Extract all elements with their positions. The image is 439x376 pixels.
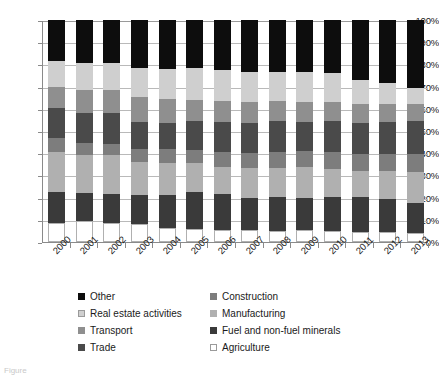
bar-2004	[159, 20, 176, 242]
bar-2011	[352, 20, 369, 242]
bar-segment-transport	[186, 100, 203, 121]
bar-segment-fuel-and-non-fuel-minerals	[48, 192, 65, 223]
bar-segment-other	[131, 20, 148, 68]
bar-segment-manufacturing	[186, 163, 203, 192]
bar-segment-trade	[159, 123, 176, 149]
bar-segment-manufacturing	[379, 171, 396, 199]
bar-segment-fuel-and-non-fuel-minerals	[214, 194, 231, 230]
bar-segment-real-estate-activities	[186, 68, 203, 100]
bar-segment-construction	[159, 149, 176, 163]
bar-segment-transport	[241, 102, 258, 123]
bar-segment-trade	[324, 121, 341, 152]
bar-2007	[241, 20, 258, 242]
bar-segment-transport	[131, 97, 148, 123]
bar-2008	[269, 20, 286, 242]
bar-2010	[324, 20, 341, 242]
bar-segment-manufacturing	[296, 167, 313, 198]
bar-segment-other	[269, 20, 286, 72]
legend-swatch-icon	[78, 293, 85, 300]
bar-segment-manufacturing	[407, 172, 424, 203]
bar-2001	[76, 20, 93, 242]
bar-segment-transport	[379, 104, 396, 122]
bar-segment-trade	[131, 122, 148, 149]
y-tick-mark-0	[38, 243, 42, 244]
legend-item-fuel-and-non-fuel-minerals[interactable]: Fuel and non-fuel minerals	[210, 322, 400, 339]
bar-segment-other	[352, 20, 369, 80]
legend-label: Fuel and non-fuel minerals	[222, 325, 340, 336]
legend-item-other[interactable]: Other	[78, 288, 223, 305]
bar-segment-fuel-and-non-fuel-minerals	[324, 197, 341, 231]
legend-label: Transport	[90, 325, 132, 336]
bar-segment-construction	[352, 154, 369, 171]
bar-segment-construction	[269, 152, 286, 168]
bar-segment-construction	[241, 153, 258, 167]
bar-segment-manufacturing	[214, 167, 231, 195]
bar-segment-other	[324, 20, 341, 73]
gridline-30	[43, 176, 428, 177]
bar-segment-trade	[241, 123, 258, 153]
bar-segment-real-estate-activities	[352, 80, 369, 104]
bar-segment-manufacturing	[241, 168, 258, 198]
legend-label: Manufacturing	[222, 308, 285, 319]
bar-segment-manufacturing	[103, 155, 120, 194]
bar-segment-trade	[379, 122, 396, 154]
legend-swatch-icon	[78, 327, 85, 334]
legend-item-manufacturing[interactable]: Manufacturing	[210, 305, 400, 322]
bar-segment-real-estate-activities	[269, 72, 286, 101]
bar-segment-trade	[48, 108, 65, 138]
bar-segment-fuel-and-non-fuel-minerals	[103, 194, 120, 223]
bar-2009	[296, 20, 313, 242]
bar-segment-transport	[324, 102, 341, 121]
bar-segment-real-estate-activities	[379, 83, 396, 104]
bar-segment-manufacturing	[159, 163, 176, 195]
legend-item-real-estate-activities[interactable]: Real estate activities	[78, 305, 223, 322]
bar-segment-construction	[48, 138, 65, 152]
legend-label: Agriculture	[222, 342, 270, 353]
bar-segment-trade	[269, 121, 286, 152]
legend-label: Construction	[222, 291, 278, 302]
bar-segment-construction	[131, 149, 148, 162]
bar-segment-trade	[186, 121, 203, 150]
bar-segment-fuel-and-non-fuel-minerals	[296, 198, 313, 230]
legend-swatch-icon	[210, 344, 217, 351]
bar-segment-other	[186, 20, 203, 68]
bar-segment-real-estate-activities	[103, 63, 120, 90]
bar-segment-transport	[296, 102, 313, 122]
gridline-40	[43, 154, 428, 155]
legend-item-construction[interactable]: Construction	[210, 288, 400, 305]
bar-2012	[379, 20, 396, 242]
gridline-70	[43, 88, 428, 89]
bar-segment-fuel-and-non-fuel-minerals	[241, 198, 258, 230]
gridline-50	[43, 132, 428, 133]
bar-segment-other	[407, 20, 424, 88]
bar-segment-trade	[352, 123, 369, 154]
bar-segment-fuel-and-non-fuel-minerals	[76, 193, 93, 221]
bar-segment-real-estate-activities	[407, 88, 424, 105]
bar-segment-other	[296, 20, 313, 72]
bar-segment-manufacturing	[352, 171, 369, 197]
bar-segment-real-estate-activities	[296, 72, 313, 102]
bar-segment-fuel-and-non-fuel-minerals	[407, 203, 424, 233]
plot-area	[42, 21, 428, 243]
bar-segment-other	[241, 20, 258, 72]
legend-item-trade[interactable]: Trade	[78, 339, 223, 356]
legend-item-agriculture[interactable]: Agriculture	[210, 339, 400, 356]
bar-segment-transport	[76, 90, 93, 113]
bar-segment-transport	[159, 99, 176, 123]
bar-2006	[214, 20, 231, 242]
bar-2013	[407, 20, 424, 242]
figure: 0%10%20%30%40%50%60%70%80%90%100% 200020…	[0, 0, 439, 376]
bar-segment-fuel-and-non-fuel-minerals	[131, 195, 148, 224]
bar-segment-transport	[352, 104, 369, 123]
bar-segment-construction	[407, 154, 424, 172]
legend-swatch-icon	[210, 327, 217, 334]
legend-label: Real estate activities	[90, 308, 182, 319]
bar-segment-transport	[269, 101, 286, 121]
bar-segment-construction	[76, 143, 93, 155]
gridline-10	[43, 221, 428, 222]
legend-item-transport[interactable]: Transport	[78, 322, 223, 339]
bar-2000	[48, 20, 65, 242]
bar-segment-real-estate-activities	[324, 73, 341, 102]
bar-segment-manufacturing	[48, 152, 65, 192]
bar-segment-other	[103, 20, 120, 63]
